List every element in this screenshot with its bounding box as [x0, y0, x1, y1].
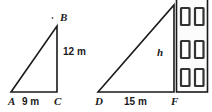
dimension-label-base-right: 15 m — [124, 97, 147, 107]
triangle-ABC-outline — [11, 26, 57, 92]
building-window — [195, 41, 204, 58]
building-window — [181, 69, 190, 86]
triangle-ABC — [11, 26, 57, 92]
building-window — [181, 41, 190, 58]
geometry-figure: A B C D F 9 m 12 m 15 m h — [0, 0, 212, 112]
vertex-label-A: A — [8, 96, 15, 107]
vertex-label-D: D — [95, 96, 103, 107]
vertex-label-C: C — [54, 96, 61, 107]
building — [177, 0, 208, 92]
building-window — [195, 69, 204, 86]
vertex-label-F: F — [171, 96, 178, 107]
vertex-label-B: B — [60, 12, 67, 23]
dimension-label-base-left: 9 m — [22, 97, 39, 107]
vertex-tick-icon — [52, 17, 54, 19]
building-window — [195, 8, 204, 25]
building-window — [181, 8, 190, 25]
dimension-label-height-left: 12 m — [63, 47, 86, 57]
dimension-label-height-right: h — [157, 47, 163, 58]
